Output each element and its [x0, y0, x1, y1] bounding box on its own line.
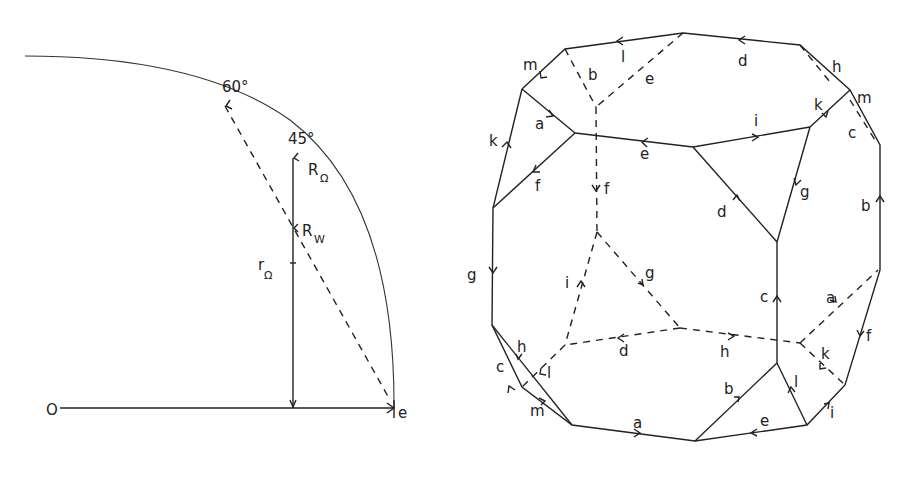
arrow-icon: [502, 142, 511, 148]
edge-label: c: [760, 288, 768, 306]
quarter-circle-arc: [25, 56, 394, 408]
hidden-edge-g: [597, 232, 680, 328]
edge-label: l: [794, 373, 798, 391]
edge-label: m: [530, 402, 545, 420]
edge-label: b: [724, 380, 734, 398]
arrow-icon: [752, 134, 758, 141]
arrow-icon: [546, 110, 553, 117]
edge-label: k: [814, 96, 823, 114]
edge-label: g: [645, 264, 655, 282]
angle-45-label: 45°: [288, 130, 315, 148]
end-label-e: e: [398, 404, 407, 422]
edge-label: h: [517, 338, 527, 356]
edge-label: k: [821, 345, 830, 363]
edge-label: i: [565, 274, 569, 292]
edge-label: f: [866, 327, 872, 345]
edge-label: g: [800, 183, 810, 201]
edge-label: k: [489, 132, 498, 150]
edge-label: e: [645, 70, 654, 88]
right-figure: l d h m m b e a k f e i k c f d g b g i …: [467, 33, 884, 441]
edge-label: f: [604, 180, 610, 198]
angle-60-label: 60°: [222, 78, 249, 96]
r-omega-big-subscript: Ω: [320, 172, 328, 185]
edge-e-upper: [575, 133, 693, 147]
r-omega-big-label: R: [308, 161, 318, 179]
edge-label: m: [523, 56, 538, 74]
edge-label: h: [720, 343, 730, 361]
edge-d-mid: [693, 147, 777, 242]
arrow-icon: [540, 368, 546, 375]
r-w-subscript: W: [314, 233, 325, 246]
hidden-edge-l: [522, 345, 565, 387]
arrow-icon: [739, 36, 745, 44]
edge-label: b: [588, 66, 598, 84]
edge-l-bottom: [777, 363, 807, 425]
left-figure: O e 60° 45° R Ω R W r Ω: [25, 56, 407, 422]
tick-rw-icon: [294, 224, 298, 232]
edge-label: m: [857, 89, 872, 107]
edge-label: g: [467, 266, 477, 284]
edge-label: e: [760, 412, 769, 430]
edge-label: d: [717, 203, 727, 221]
edge-label: a: [633, 414, 642, 432]
edge-label: f: [535, 177, 541, 195]
edge-label: a: [535, 115, 544, 133]
edge-label: c: [496, 358, 504, 376]
arrow-icon: [618, 334, 624, 342]
tick-60-icon: [226, 100, 232, 109]
edge-label: l: [547, 364, 551, 382]
origin-label: O: [46, 401, 58, 419]
edge-label: c: [848, 124, 856, 142]
edge-label: e: [640, 145, 649, 163]
edge-a-upper: [522, 89, 575, 133]
edge-label: i: [830, 404, 834, 422]
edge-label: i: [754, 112, 758, 130]
diagram-canvas: O e 60° 45° R Ω R W r Ω: [0, 0, 908, 478]
hidden-edge-i: [565, 232, 597, 345]
hidden-edge-f: [596, 107, 597, 232]
hidden-edge-h-top: [800, 45, 830, 82]
edge-i-upper: [693, 127, 810, 147]
r-omega-small-subscript: Ω: [264, 269, 272, 282]
arrow-icon: [508, 386, 515, 393]
edge-label: d: [738, 52, 748, 70]
hidden-edge-e: [596, 33, 683, 107]
edge-label: b: [861, 197, 871, 215]
edge-label: d: [619, 342, 629, 360]
edge-label: a: [826, 289, 835, 307]
tick-45-icon: [294, 153, 299, 161]
r-w-label: R: [302, 222, 312, 240]
edge-label: h: [832, 58, 842, 76]
arrow-icon: [733, 195, 740, 201]
hidden-edge-h: [680, 328, 800, 343]
dashed-line-60-to-e: [225, 106, 390, 400]
edge-label: l: [621, 48, 625, 66]
